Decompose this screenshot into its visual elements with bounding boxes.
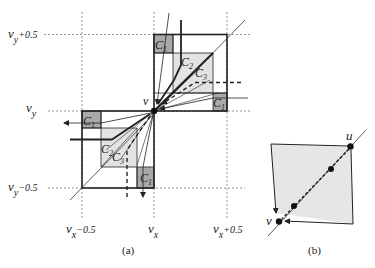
intermediate-dot	[328, 166, 334, 172]
vertex-v-dot	[151, 108, 157, 114]
label-vx-plus: vx+0.5	[213, 221, 242, 240]
vertex-u-dot	[347, 143, 353, 149]
label-vy-plus: vy+0.5	[8, 26, 37, 45]
vertex-v-label-b: v	[266, 213, 272, 228]
vertex-v-label: v	[143, 94, 149, 108]
figure-b: u v (b)	[266, 128, 366, 257]
intermediate-dot	[291, 203, 297, 209]
label-vx: vx	[148, 221, 159, 240]
label-vx-minus: vx−0.5	[66, 221, 95, 240]
figure-a: v C1 C2 C3 C1 C1 C2 C3 C1 vy+0.5 vy vy−0…	[8, 12, 250, 257]
vertex-u-label: u	[346, 128, 353, 143]
label-vy-minus: vy−0.5	[8, 179, 37, 198]
thin-path-upper-right	[160, 98, 248, 109]
vertex-v-dot-b	[276, 218, 282, 224]
caption-a: (a)	[122, 244, 135, 257]
shaded-cell	[271, 144, 353, 224]
caption-b: (b)	[308, 244, 321, 257]
label-vy: vy	[26, 100, 37, 119]
figure: v C1 C2 C3 C1 C1 C2 C3 C1 vy+0.5 vy vy−0…	[0, 0, 375, 268]
